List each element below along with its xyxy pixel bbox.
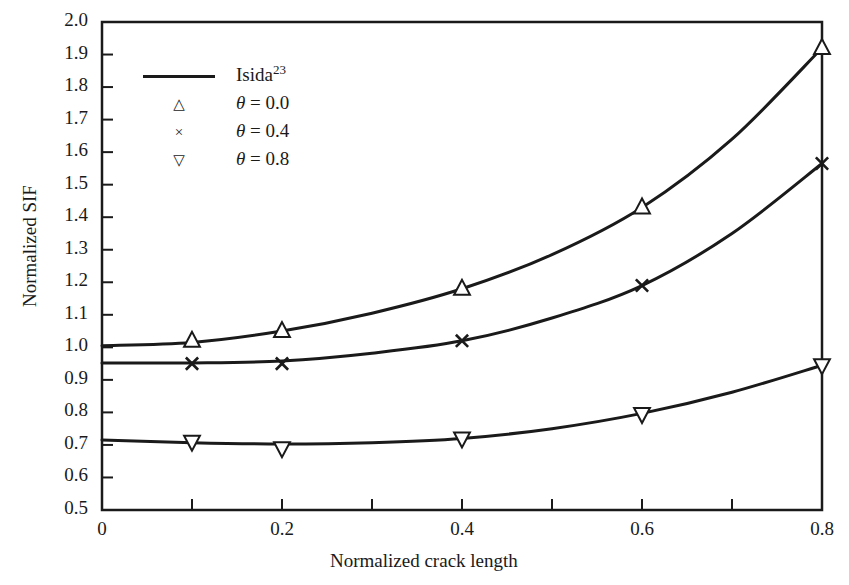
x-tick-label: 0.6 — [612, 518, 672, 540]
legend-value: Isida — [236, 64, 273, 85]
y-tick-label: 1.1 — [40, 302, 88, 324]
chart-legend: Isida23△θ = 0.0×θ = 0.4▽θ = 0.8 — [136, 62, 289, 170]
chart-figure: 0.50.60.70.80.91.01.11.21.31.41.51.61.71… — [0, 0, 849, 585]
y-tick-label: 1.7 — [40, 107, 88, 129]
x-tick-label: 0.2 — [252, 518, 312, 540]
legend-value: = 0.8 — [245, 148, 289, 169]
y-tick-label: 1.3 — [40, 237, 88, 259]
x-tick-label: 0 — [72, 518, 132, 540]
y-tick-label: 1.0 — [40, 334, 88, 356]
legend-label: θ = 0.4 — [222, 120, 289, 142]
legend-marker-icon: × — [175, 124, 183, 140]
y-tick-label: 0.6 — [40, 464, 88, 486]
data-marker-x — [636, 279, 648, 291]
legend-marker-swatch: △ — [136, 92, 222, 114]
y-tick-label: 1.5 — [40, 172, 88, 194]
x-tick-label: 0.8 — [792, 518, 849, 540]
legend-value: = 0.0 — [245, 92, 289, 113]
y-tick-label: 1.6 — [40, 139, 88, 161]
legend-line-icon — [143, 75, 215, 78]
x-tick-label: 0.4 — [432, 518, 492, 540]
plot-canvas — [0, 0, 849, 585]
y-tick-label: 1.8 — [40, 74, 88, 96]
data-marker-triangle-down — [274, 442, 290, 457]
legend-marker-swatch: × — [136, 120, 222, 142]
y-tick-label: 0.5 — [40, 497, 88, 519]
reference-curve — [102, 164, 822, 364]
y-tick-label: 1.9 — [40, 42, 88, 64]
data-marker-x — [276, 357, 288, 369]
x-axis-title: Normalized crack length — [330, 550, 518, 572]
legend-marker-swatch: ▽ — [136, 148, 222, 170]
y-tick-label: 0.9 — [40, 367, 88, 389]
theta-symbol: θ — [236, 92, 245, 113]
data-marker-triangle-up — [814, 39, 830, 54]
theta-symbol: θ — [236, 148, 245, 169]
data-marker-triangle-up — [184, 332, 200, 347]
y-tick-label: 0.8 — [40, 399, 88, 421]
x-axis-ticks — [192, 499, 732, 510]
y-tick-label: 0.7 — [40, 432, 88, 454]
y-tick-label: 1.4 — [40, 204, 88, 226]
legend-label: Isida23 — [222, 62, 289, 86]
y-axis-ticks — [102, 55, 113, 478]
legend-reference-superscript: 23 — [273, 62, 286, 77]
theta-symbol: θ — [236, 120, 245, 141]
legend-label: θ = 0.8 — [222, 148, 289, 170]
y-axis-title: Normalized SIF — [19, 166, 41, 326]
legend-line-swatch — [136, 63, 222, 85]
legend-value: = 0.4 — [245, 120, 289, 141]
legend-marker-icon: △ — [173, 96, 185, 112]
y-tick-label: 2.0 — [40, 9, 88, 31]
data-marker-triangle-up — [634, 198, 650, 213]
legend-label: θ = 0.0 — [222, 92, 289, 114]
y-tick-label: 1.2 — [40, 269, 88, 291]
legend-marker-icon: ▽ — [173, 152, 185, 168]
